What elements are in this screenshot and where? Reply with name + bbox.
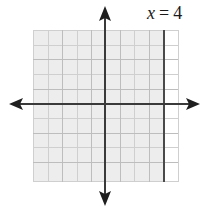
grid-unshaded-region: [164, 30, 179, 182]
grid-shaded-region: [33, 30, 164, 182]
equation-variable: x: [147, 3, 155, 23]
equation-operator: =: [159, 3, 169, 23]
equation-value: 4: [173, 3, 182, 23]
equation-label: x=4: [147, 1, 203, 25]
coordinate-plane-figure: x=4: [0, 0, 209, 210]
coordinate-plane-svg: [0, 0, 209, 210]
